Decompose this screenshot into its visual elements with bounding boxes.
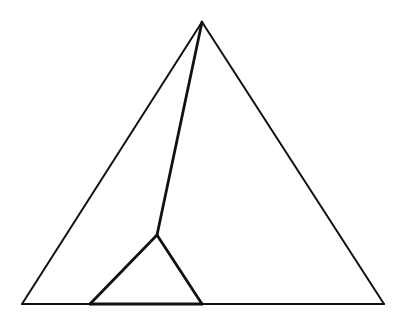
inner-left-side [90, 235, 157, 304]
outer-triangle [22, 22, 384, 304]
inner-right-side [157, 235, 202, 304]
apex-to-interior [157, 22, 202, 235]
outer-right-side [202, 22, 384, 304]
triangle-diagram [0, 0, 404, 323]
inner-triangle [90, 235, 202, 304]
